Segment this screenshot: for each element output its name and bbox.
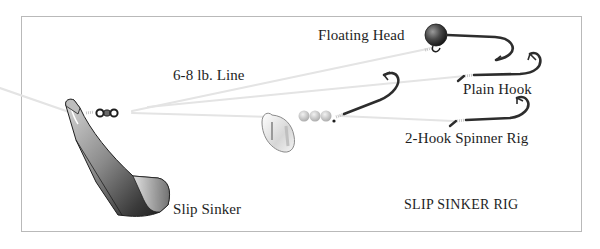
slip-sinker-icon	[66, 99, 170, 216]
barrel-swivel-icon	[86, 109, 118, 116]
floating-head-icon	[425, 24, 513, 60]
slip-sinker-label: Slip Sinker	[173, 202, 241, 217]
spinner-rig-label: 2-Hook Spinner Rig	[405, 131, 528, 146]
diagram-title: SLIP SINKER RIG	[404, 198, 518, 212]
plain-hook-label: Plain Hook	[463, 82, 532, 97]
floating-head-label: Floating Head	[318, 28, 405, 43]
line-label: 6-8 lb. Line	[173, 68, 245, 83]
